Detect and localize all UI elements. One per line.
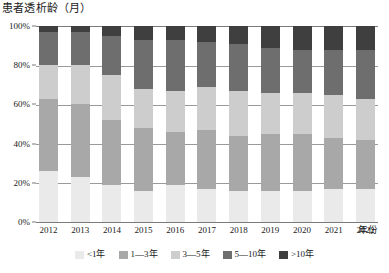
legend-swatch-icon	[223, 251, 232, 259]
x-axis-tick-label: 2013	[71, 225, 90, 236]
bar-segment	[102, 185, 121, 222]
bar-segment	[39, 99, 58, 172]
legend-item[interactable]: <1年	[75, 249, 106, 260]
bar-segment	[166, 132, 185, 185]
bar-column	[261, 26, 280, 222]
x-axis-tick-label: 2012	[39, 225, 58, 236]
bar-segment	[261, 191, 280, 222]
x-axis-tick-label: 2021	[324, 225, 343, 236]
bar-column	[356, 26, 375, 222]
bar-segment	[197, 87, 216, 130]
bar-segment	[166, 185, 185, 222]
bar-segment	[356, 99, 375, 140]
bar-column	[229, 26, 248, 222]
bar-segment	[261, 48, 280, 93]
bar-segment	[39, 171, 58, 222]
bar-column	[134, 26, 153, 222]
bar-segment	[356, 140, 375, 189]
legend-label: <1年	[87, 249, 106, 260]
x-axis-title: 年份	[358, 224, 378, 236]
bar-segment	[324, 26, 343, 50]
bar-segment	[261, 93, 280, 134]
x-axis-tick-label: 2018	[229, 225, 248, 236]
legend-item[interactable]: 3—5年	[171, 249, 210, 260]
bar-segment	[134, 89, 153, 128]
bar-column	[102, 26, 121, 222]
bar-column	[324, 26, 343, 222]
bar-segment	[356, 189, 375, 222]
bar-segment	[134, 191, 153, 222]
legend-label: >10年	[291, 249, 314, 260]
bar-segment	[166, 91, 185, 132]
bar-segment	[102, 120, 121, 185]
bar-segment	[229, 136, 248, 191]
bar-segment	[71, 104, 90, 177]
bar-segment	[134, 40, 153, 89]
bar-segment	[71, 65, 90, 104]
legend-item[interactable]: >10年	[279, 249, 314, 260]
bar-segment	[324, 138, 343, 189]
bar-segment	[197, 26, 216, 42]
bar-segment	[324, 95, 343, 138]
x-axis-tick-label: 2017	[197, 225, 216, 236]
legend-swatch-icon	[119, 251, 128, 259]
chart-legend: <1年1—3年3—5年5—10年>10年	[0, 249, 389, 260]
bar-series-container	[36, 26, 378, 222]
legend-label: 3—5年	[183, 249, 210, 260]
bar-segment	[134, 26, 153, 40]
bar-segment	[134, 128, 153, 191]
bar-segment	[229, 26, 248, 44]
y-axis-tick-label: 0%	[18, 217, 30, 227]
x-axis-tick-label: 2016	[166, 225, 185, 236]
legend-item[interactable]: 5—10年	[223, 249, 267, 260]
bar-segment	[324, 189, 343, 222]
x-axis-tick-label: 2019	[261, 225, 280, 236]
legend-label: 5—10年	[235, 249, 267, 260]
x-axis-tick-label: 2020	[293, 225, 312, 236]
x-axis-tick-label: 2014	[102, 225, 121, 236]
bar-segment	[261, 134, 280, 191]
bar-segment	[293, 50, 312, 93]
legend-item[interactable]: 1—3年	[119, 249, 158, 260]
legend-swatch-icon	[279, 251, 288, 259]
bar-segment	[356, 26, 375, 50]
bar-segment	[356, 50, 375, 99]
bar-segment	[71, 177, 90, 222]
bar-segment	[71, 32, 90, 65]
y-axis-tick-label: 40%	[14, 139, 31, 149]
y-axis: 0%20%40%60%80%100%	[0, 26, 36, 222]
y-axis-tick-label: 100%	[9, 21, 30, 31]
bar-column	[166, 26, 185, 222]
legend-swatch-icon	[171, 251, 180, 259]
bar-column	[197, 26, 216, 222]
bar-segment	[293, 26, 312, 50]
bar-segment	[293, 93, 312, 134]
bar-segment	[39, 65, 58, 98]
bar-segment	[166, 26, 185, 40]
bar-segment	[324, 50, 343, 95]
bar-segment	[102, 75, 121, 120]
bar-segment	[102, 36, 121, 75]
x-axis-tick-label: 2015	[134, 225, 153, 236]
bar-segment	[293, 134, 312, 191]
plot-frame	[36, 26, 378, 222]
y-axis-tick-label: 60%	[14, 99, 31, 109]
bar-column	[39, 26, 58, 222]
bar-segment	[102, 26, 121, 36]
bar-segment	[261, 26, 280, 48]
y-axis-tick-label: 80%	[14, 60, 31, 70]
bar-segment	[197, 42, 216, 87]
bar-segment	[229, 44, 248, 91]
legend-label: 1—3年	[131, 249, 158, 260]
bar-column	[293, 26, 312, 222]
y-axis-tick-label: 20%	[14, 178, 31, 188]
gridline	[36, 222, 378, 223]
bar-segment	[197, 189, 216, 222]
bar-segment	[229, 91, 248, 136]
chart-figure: 患者透析龄（月） 0%20%40%60%80%100% 201220132014…	[0, 0, 389, 273]
chart-title: 患者透析龄（月）	[2, 1, 92, 15]
x-axis: 2012201320142015201620172018201920202021…	[36, 225, 378, 239]
bar-column	[71, 26, 90, 222]
bar-segment	[229, 191, 248, 222]
bar-segment	[39, 32, 58, 65]
